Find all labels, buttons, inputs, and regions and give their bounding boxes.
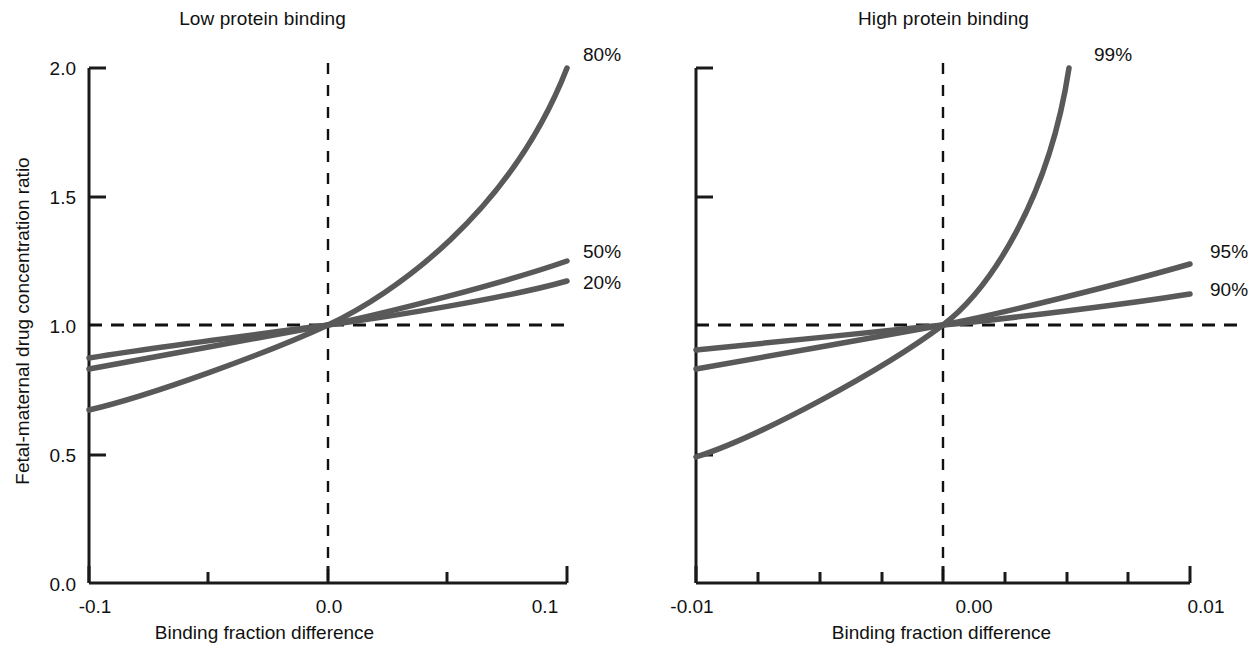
figure: Low protein binding Fetal-maternal drug … xyxy=(0,0,1258,653)
plot-area-right xyxy=(629,0,1258,653)
panel-high-protein-binding: High protein binding Binding fraction di… xyxy=(629,0,1258,653)
panel-low-protein-binding: Low protein binding Fetal-maternal drug … xyxy=(0,0,629,653)
curve-99-percent xyxy=(696,68,1069,457)
y-axis-ticks-left xyxy=(89,68,106,455)
y-axis-ticks-right xyxy=(696,68,713,455)
plot-area-left xyxy=(0,0,629,653)
